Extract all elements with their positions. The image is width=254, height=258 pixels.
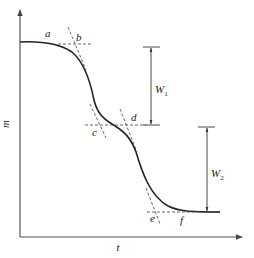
- tga-diagram: m t a b c d e f W1: [0, 0, 254, 258]
- w1-label: W1: [155, 83, 168, 98]
- point-label-c: c: [92, 126, 97, 138]
- x-axis-label: t: [116, 241, 120, 253]
- w2-label: W2: [211, 167, 224, 182]
- point-label-b: b: [76, 31, 82, 43]
- w1-dimension: W1: [143, 47, 168, 125]
- point-label-d: d: [131, 111, 137, 123]
- point-label-a: a: [45, 27, 51, 39]
- mass-loss-curve: [20, 42, 220, 212]
- point-label-f: f: [180, 214, 185, 226]
- w2-dimension: W2: [198, 127, 224, 212]
- point-label-e: e: [150, 212, 155, 224]
- y-axis-label: m: [0, 120, 11, 128]
- diagram-canvas: m t a b c d e f W1: [0, 0, 254, 258]
